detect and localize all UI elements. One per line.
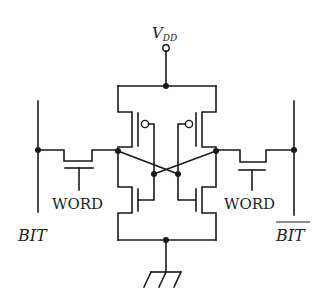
sram-cell-schematic: VDD xyxy=(0,0,334,305)
ground-icon xyxy=(144,240,181,287)
nmos-right xyxy=(178,151,216,240)
word-label-left: WORD xyxy=(52,195,103,213)
bit-bar-label-right: BIT xyxy=(275,226,306,245)
access-transistor-right xyxy=(216,150,294,190)
word-label-right: WORD xyxy=(224,195,275,213)
cross-couple-wire-1 xyxy=(118,151,178,174)
pmos-right xyxy=(178,86,216,174)
cross-couple-wire-2 xyxy=(154,151,216,174)
nmos-left xyxy=(118,151,154,240)
access-transistor-left xyxy=(38,150,118,190)
bit-label-left: BIT xyxy=(17,226,48,245)
pmos-left xyxy=(118,86,154,174)
vdd-label: VDD xyxy=(152,24,177,43)
